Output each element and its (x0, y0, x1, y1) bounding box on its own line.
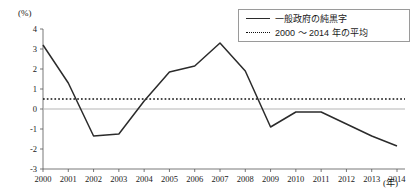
x-axis-tick-label: 2009 (262, 174, 279, 184)
x-axis-tick-label: 2000 (35, 174, 52, 184)
legend-item-average: 2000 ～ 2014 年の平均 (244, 26, 404, 40)
y-axis-ticks: -3-2-101234 (30, 24, 43, 174)
x-axis-tick-label: 2014 (389, 174, 407, 184)
y-axis-tick-label: -3 (30, 164, 37, 174)
y-axis-tick-label: 0 (33, 104, 37, 114)
chart-legend: 一般政府の純黒字 2000 ～ 2014 年の平均 (238, 9, 410, 42)
x-axis-tick-label: 2010 (287, 174, 304, 184)
x-axis-tick-label: 2012 (338, 174, 355, 184)
legend-item-series: 一般政府の純黒字 (244, 12, 404, 26)
y-axis-tick-label: -2 (30, 144, 37, 154)
y-axis-tick-label: 4 (33, 24, 38, 34)
x-axis-tick-label: 2013 (363, 174, 380, 184)
legend-solid-line-icon (244, 14, 270, 24)
x-axis-tick-label: 2005 (161, 174, 178, 184)
net-lending-series-line (43, 43, 397, 146)
x-axis-tick-label: 2004 (136, 174, 154, 184)
x-axis-tick-label: 2008 (237, 174, 254, 184)
x-axis-tick-label: 2011 (313, 174, 330, 184)
legend-dotted-line-icon (244, 28, 270, 38)
x-axis-tick-label: 2001 (60, 174, 77, 184)
y-axis-tick-label: 1 (33, 84, 37, 94)
x-axis-ticks: 2000200120022003200420052006200720082009… (35, 169, 407, 184)
legend-label-average: 2000 ～ 2014 年の平均 (275, 27, 368, 39)
x-axis-tick-label: 2002 (85, 174, 102, 184)
y-axis-tick-label: -1 (30, 124, 37, 134)
legend-label-series: 一般政府の純黒字 (275, 13, 347, 25)
y-axis-tick-label: 3 (33, 44, 37, 54)
x-axis-tick-label: 2007 (212, 174, 229, 184)
chart-container: (%) (年) -3-2-101234 20002001200220032004… (0, 0, 415, 196)
x-axis-tick-label: 2003 (110, 174, 127, 184)
x-axis-tick-label: 2006 (186, 174, 203, 184)
y-axis-tick-label: 2 (33, 64, 37, 74)
